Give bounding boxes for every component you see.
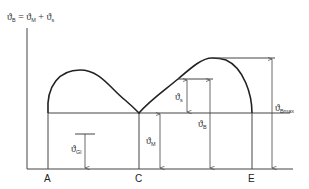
theta-m-label: ϑM — [146, 135, 156, 147]
theta-s-label: ϑs — [175, 91, 183, 103]
point-c-label: C — [135, 173, 142, 184]
temperature-diagram: ϑB = ϑM + ϑs ϑGl ϑM ϑs ϑB ϑBmax A C E — [0, 0, 309, 189]
temperature-curve — [48, 58, 252, 113]
theta-b-label: ϑB — [198, 118, 207, 130]
theta-bmax-label: ϑBmax — [275, 102, 294, 114]
point-a-label: A — [44, 173, 51, 184]
point-e-label: E — [248, 173, 255, 184]
theta-gl-label: ϑGl — [71, 143, 81, 155]
formula: ϑB = ϑM + ϑs — [7, 11, 54, 23]
